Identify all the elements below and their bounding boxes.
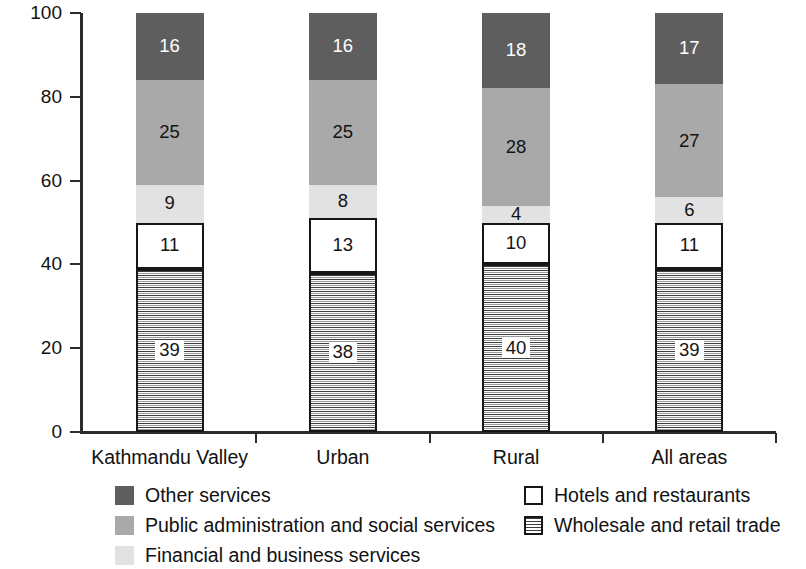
bar-segment-value: 17 [679, 39, 700, 58]
bar-segment-financial[interactable]: 8 [309, 185, 377, 219]
stacked-bar-chart: Share of service employment (%) 02040608… [0, 0, 806, 569]
bar-segment-value: 38 [329, 342, 358, 363]
y-tick-mark [70, 347, 81, 349]
bar-segment-value: 9 [164, 194, 174, 213]
legend-label: Financial and business services [145, 544, 420, 566]
legend-item-hotels[interactable]: Hotels and restaurants [524, 484, 750, 506]
bar-group[interactable]: 381382516 [309, 13, 377, 432]
bar-segment-hotels[interactable]: 13 [309, 218, 377, 272]
legend-swatch-other-icon [115, 486, 134, 505]
bar-segment-value: 10 [506, 234, 527, 253]
legend-item-wholesale[interactable]: Wholesale and retail trade [524, 514, 781, 536]
y-tick-label: 60 [0, 171, 62, 190]
y-tick-label: 0 [0, 422, 62, 441]
bar-segment-public[interactable]: 25 [136, 80, 204, 185]
y-tick-label: 40 [0, 254, 62, 273]
y-tick-mark [70, 12, 81, 14]
bar-segment-value: 16 [333, 37, 354, 56]
bar-segment-financial[interactable]: 6 [655, 197, 723, 222]
bar-segment-value: 27 [679, 132, 700, 151]
legend-swatch-financial-icon [115, 546, 134, 565]
x-tick-mark [255, 433, 257, 443]
bar-segment-other[interactable]: 17 [655, 13, 723, 84]
bar-segment-hotels[interactable]: 10 [482, 223, 550, 265]
legend-label: Other services [145, 484, 271, 506]
bar-group[interactable]: 391162717 [655, 13, 723, 432]
bar-segment-wholesale[interactable]: 39 [136, 269, 204, 432]
bar-segment-financial[interactable]: 4 [482, 206, 550, 223]
legend-swatch-public-icon [115, 516, 134, 535]
y-tick-mark [70, 431, 81, 433]
bar-segment-value: 39 [675, 340, 704, 361]
y-tick-mark [70, 263, 81, 265]
y-tick-label: 80 [0, 87, 62, 106]
legend-label: Public administration and social service… [145, 514, 495, 536]
bar-segment-wholesale[interactable]: 38 [309, 273, 377, 432]
x-tick-mark [602, 433, 604, 443]
bar-segment-value: 28 [506, 138, 527, 157]
bar-segment-value: 6 [684, 201, 694, 220]
legend-swatch-wholesale-icon [524, 516, 543, 535]
bar-segment-public[interactable]: 25 [309, 80, 377, 185]
bar-segment-financial[interactable]: 9 [136, 185, 204, 223]
x-tick-mark [775, 433, 777, 443]
x-tick-mark [429, 433, 431, 443]
bar-segment-value: 18 [506, 41, 527, 60]
y-axis-line [80, 13, 83, 434]
bar-segment-value: 4 [511, 205, 521, 224]
y-tick-mark [70, 180, 81, 182]
legend-swatch-hotels-icon [524, 486, 543, 505]
bar-segment-other[interactable]: 16 [136, 13, 204, 80]
bar-group[interactable]: 391192516 [136, 13, 204, 432]
x-axis-category-label: All areas [579, 445, 799, 469]
y-tick-label: 100 [0, 3, 62, 22]
bar-segment-wholesale[interactable]: 40 [482, 264, 550, 432]
bar-segment-value: 39 [155, 340, 184, 361]
y-tick-label: 20 [0, 338, 62, 357]
bar-segment-value: 8 [338, 192, 348, 211]
legend-item-financial[interactable]: Financial and business services [115, 544, 420, 566]
bar-segment-value: 40 [502, 338, 531, 359]
bar-segment-public[interactable]: 28 [482, 88, 550, 205]
bar-segment-value: 25 [333, 123, 354, 142]
bar-segment-public[interactable]: 27 [655, 84, 723, 197]
bar-segment-other[interactable]: 16 [309, 13, 377, 80]
legend-item-public[interactable]: Public administration and social service… [115, 514, 495, 536]
bar-group[interactable]: 401042818 [482, 13, 550, 432]
bar-segment-value: 11 [680, 236, 699, 255]
bar-segment-value: 11 [160, 236, 179, 255]
y-tick-mark [70, 96, 81, 98]
bar-segment-value: 25 [159, 123, 180, 142]
bar-segment-hotels[interactable]: 11 [136, 223, 204, 269]
legend-label: Wholesale and retail trade [554, 514, 781, 536]
bar-segment-wholesale[interactable]: 39 [655, 269, 723, 432]
bar-segment-other[interactable]: 18 [482, 13, 550, 88]
chart-legend: Other servicesPublic administration and … [0, 484, 806, 569]
legend-label: Hotels and restaurants [554, 484, 750, 506]
bar-segment-value: 16 [159, 37, 180, 56]
bar-segment-value: 13 [333, 236, 354, 255]
bar-segment-hotels[interactable]: 11 [655, 223, 723, 269]
legend-item-other[interactable]: Other services [115, 484, 271, 506]
